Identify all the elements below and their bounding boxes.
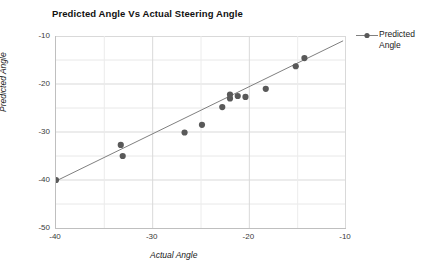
data-point <box>199 122 205 128</box>
data-point <box>301 55 307 61</box>
data-point <box>118 142 124 148</box>
data-point <box>219 104 225 110</box>
data-point <box>293 63 299 69</box>
data-layer <box>56 36 346 228</box>
x-axis-title: Actual Angle <box>150 250 197 260</box>
chart-title: Predicted Angle Vs Actual Steering Angle <box>52 8 243 19</box>
chart-container: Predicted Angle Vs Actual Steering Angle… <box>0 0 424 274</box>
x-tick-label: -10 <box>330 232 360 241</box>
data-point <box>56 177 59 183</box>
trend-line <box>56 41 343 184</box>
y-tick-label: -10 <box>24 31 50 40</box>
y-tick-label: -20 <box>24 79 50 88</box>
legend-item-label: Predicted Angle <box>379 29 424 51</box>
data-point <box>227 91 233 97</box>
x-tick-label: -30 <box>137 232 167 241</box>
y-tick-label: -50 <box>24 223 50 232</box>
y-axis-title: Predicted Angle <box>0 52 8 112</box>
data-point <box>181 129 187 135</box>
legend: Predicted Angle <box>355 29 424 51</box>
x-tick-label: -20 <box>233 232 263 241</box>
y-tick-label: -40 <box>24 175 50 184</box>
data-point <box>120 153 126 159</box>
y-tick-label: -30 <box>24 127 50 136</box>
legend-marker-icon <box>355 30 379 41</box>
plot-area <box>55 36 346 229</box>
data-point <box>263 86 269 92</box>
x-tick-label: -40 <box>40 232 70 241</box>
data-point <box>242 94 248 100</box>
data-point <box>235 93 241 99</box>
